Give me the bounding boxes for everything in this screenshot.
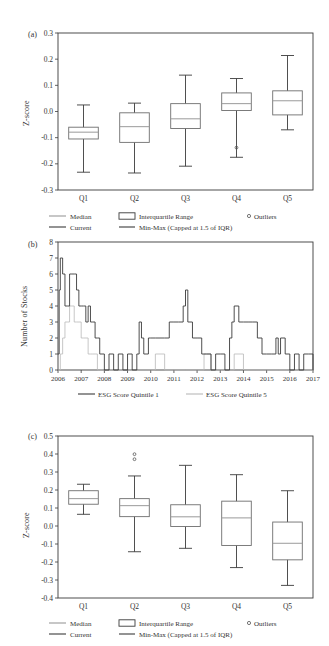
y-tick-label: 0 (49, 366, 53, 375)
panel-a: (a) Z-score 0.30.20.10.0-0.1-0.2-0.3Q1Q2… (0, 0, 329, 232)
panel-a-y-axis-title: Z-score (22, 78, 31, 148)
legend-iqr-swatch (119, 620, 135, 626)
x-tick-label-q5: Q5 (283, 194, 292, 203)
y-tick-label: -0.2 (41, 159, 53, 168)
legend-quintile5-label: ESG Score Quintile 5 (206, 391, 267, 399)
y-tick-label: 2 (49, 334, 53, 343)
x-tick-label-q4: Q4 (232, 194, 241, 203)
iqr-box (273, 91, 303, 115)
legend-median-label: Median (70, 213, 92, 221)
x-tick-label-q2: Q2 (130, 602, 139, 611)
y-tick-label: 0.0 (44, 107, 54, 116)
panel-b-letter: (b) (28, 240, 37, 249)
legend-current-label: Current (70, 631, 91, 639)
y-tick-label: -0.1 (41, 540, 53, 549)
x-tick-label: 2013 (213, 375, 228, 383)
x-tick-label-q1: Q1 (79, 602, 88, 611)
y-tick-label: -0.4 (41, 594, 53, 603)
legend-minmax-label: Min-Max (Capped at 1.5 of IQR) (139, 224, 233, 232)
x-tick-label-q4: Q4 (232, 602, 241, 611)
legend-outlier-swatch (247, 621, 250, 624)
x-tick-label-q5: Q5 (283, 602, 292, 611)
legend-iqr-swatch (119, 213, 135, 219)
y-tick-label: 3 (49, 318, 53, 327)
y-tick-label: 0.1 (44, 504, 54, 513)
iqr-box (171, 505, 201, 527)
legend-quintile1-label: ESG Score Quintile 1 (98, 391, 159, 399)
y-tick-label: -0.2 (41, 558, 53, 567)
x-tick-label: 2014 (236, 375, 251, 383)
x-tick-label-q2: Q2 (130, 194, 139, 203)
panel-c-y-axis-title: Z-score (22, 490, 31, 560)
legend-outlier-swatch (247, 214, 250, 217)
line-legend: ESG Score Quintile 1ESG Score Quintile 5 (78, 391, 267, 399)
y-tick-label: 7 (49, 254, 53, 263)
legend-outliers-label: Outliers (254, 213, 277, 221)
x-tick-label: 2008 (97, 375, 112, 383)
panel-c: (c) Z-score 0.50.40.30.20.10.0-0.1-0.2-0… (0, 410, 329, 646)
panel-b-plot: 0123456782006200720082009201020112012201… (0, 232, 329, 410)
iqr-box (222, 501, 252, 545)
iqr-box (171, 104, 201, 129)
y-tick-label: 8 (49, 238, 53, 247)
panel-b-y-axis-title: Number of Stocks (20, 274, 29, 358)
y-tick-label: -0.3 (41, 186, 53, 195)
y-tick-label: 0.4 (44, 450, 54, 459)
x-tick-label-q1: Q1 (79, 194, 88, 203)
y-tick-label: 5 (49, 286, 53, 295)
box-legend: MedianInterquartile RangeOutliersCurrent… (49, 620, 277, 639)
panel-c-letter: (c) (28, 432, 37, 441)
y-tick-label: 1 (49, 350, 53, 359)
y-tick-label: 6 (49, 270, 53, 279)
x-tick-label: 2010 (144, 375, 159, 383)
iqr-box (69, 491, 99, 505)
panel-a-plot: 0.30.20.10.0-0.1-0.2-0.3Q1Q2Q3Q4Q5Median… (0, 0, 329, 232)
legend-iqr-label: Interquartile Range (139, 620, 193, 628)
panel-b: (b) Number of Stocks 0123456782006200720… (0, 232, 329, 410)
panel-c-plot: 0.50.40.30.20.10.0-0.1-0.2-0.3-0.4Q1Q2Q3… (0, 410, 329, 646)
legend-outliers-label: Outliers (254, 620, 277, 628)
iqr-box (273, 522, 303, 560)
legend-current-label: Current (70, 224, 91, 232)
x-tick-label-q3: Q3 (181, 194, 190, 203)
y-tick-label: 0.1 (44, 81, 54, 90)
y-tick-label: 0.5 (44, 432, 54, 441)
y-tick-label: 0.3 (44, 468, 54, 477)
x-tick-label-q3: Q3 (181, 602, 190, 611)
legend-median-label: Median (70, 620, 92, 628)
y-tick-label: 0.0 (44, 522, 54, 531)
x-tick-label: 2012 (190, 375, 205, 383)
x-tick-label: 2009 (121, 375, 136, 383)
x-tick-label: 2015 (260, 375, 275, 383)
iqr-box (120, 499, 150, 517)
panel-a-letter: (a) (28, 30, 37, 39)
legend-iqr-label: Interquartile Range (139, 213, 193, 221)
y-tick-label: 4 (49, 302, 53, 311)
y-tick-label: 0.2 (44, 486, 54, 495)
x-tick-label: 2006 (51, 375, 66, 383)
x-tick-label: 2017 (306, 375, 321, 383)
box-legend: MedianInterquartile RangeOutliersCurrent… (49, 213, 277, 232)
y-tick-label: -0.3 (41, 576, 53, 585)
x-tick-label: 2007 (74, 375, 89, 383)
iqr-box (120, 113, 150, 143)
legend-minmax-label: Min-Max (Capped at 1.5 of IQR) (139, 631, 233, 639)
y-tick-label: 0.3 (44, 29, 54, 38)
y-tick-label: -0.1 (41, 133, 53, 142)
x-tick-label: 2016 (283, 375, 298, 383)
iqr-box (222, 93, 252, 111)
x-tick-label: 2011 (167, 375, 181, 383)
iqr-box (69, 127, 99, 139)
y-tick-label: 0.2 (44, 55, 54, 64)
